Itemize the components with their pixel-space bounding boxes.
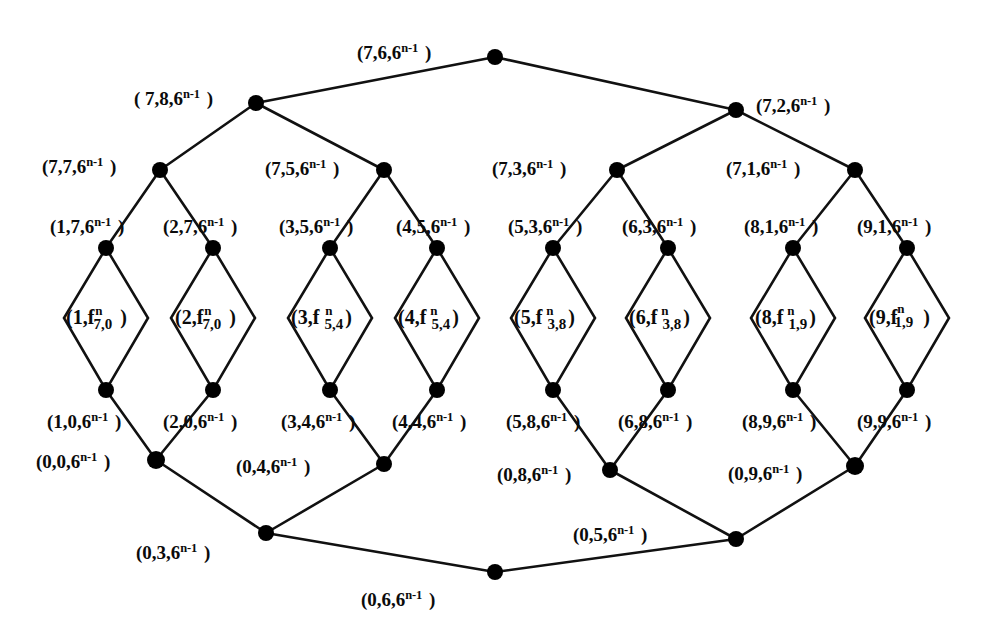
node-d4-top bbox=[429, 240, 445, 256]
cell-label-6: (6,fn3,8) bbox=[629, 307, 690, 327]
node-d8-top bbox=[899, 240, 915, 256]
cell-label-5: (5,fn3,8) bbox=[514, 307, 575, 327]
node-d3-bottom bbox=[322, 382, 338, 398]
label-r3-3: (3,5,6n-1) bbox=[279, 216, 353, 236]
node-d2-top bbox=[205, 240, 221, 256]
cell-label-2: (2,fn7,0) bbox=[175, 307, 236, 327]
node-d7-bottom bbox=[785, 382, 801, 398]
node-d1-bottom bbox=[98, 382, 114, 398]
node-d7-top bbox=[785, 240, 801, 256]
node-top-left bbox=[248, 95, 264, 111]
cell-label-8: (9,fn1,9) bbox=[869, 307, 930, 327]
node-merge-e bbox=[147, 451, 165, 469]
label-r6-d: (0,9,6n-1) bbox=[728, 463, 802, 483]
node-d4-bottom bbox=[429, 382, 445, 398]
label-r3-8: (9,1,6n-1) bbox=[857, 216, 931, 236]
node-branch-c bbox=[609, 162, 625, 178]
label-bottom-right: (0,5,6n-1) bbox=[573, 524, 647, 544]
label-r3-4: (4,5,6n-1) bbox=[396, 216, 470, 236]
node-d2-bottom bbox=[205, 382, 221, 398]
label-r2-c: (7,3,6n-1) bbox=[492, 158, 566, 178]
node-branch-b bbox=[376, 162, 392, 178]
label-bottom-center: (0,6,6n-1) bbox=[361, 589, 435, 609]
node-d6-top bbox=[660, 240, 676, 256]
label-bottom-left: (0,3,6n-1) bbox=[136, 542, 210, 562]
node-d6-bottom bbox=[660, 382, 676, 398]
label-r6-c: (0,8,6n-1) bbox=[497, 464, 571, 484]
label-r5-7: (8,9,6n-1) bbox=[742, 411, 816, 431]
node-d1-top bbox=[98, 240, 114, 256]
label-r6-b: (0,4,6n-1) bbox=[236, 456, 310, 476]
node-d5-top bbox=[545, 240, 561, 256]
label-r2-d: (7,1,6n-1) bbox=[726, 158, 800, 178]
label-r5-2: (2,0,6n-1) bbox=[163, 411, 237, 431]
node-merge-h bbox=[846, 457, 864, 475]
edge-tl-to-a bbox=[160, 103, 256, 170]
node-top-right bbox=[728, 102, 744, 118]
label-r2-a: (7,7,6n-1) bbox=[42, 156, 116, 176]
node-top-center bbox=[487, 49, 503, 65]
label-top-right: (7,2,6n-1) bbox=[756, 95, 830, 115]
node-d5-bottom bbox=[545, 382, 561, 398]
edge-bl-bottom bbox=[266, 533, 495, 572]
label-top-center: (7,6,6n-1) bbox=[357, 42, 431, 62]
edge-tr-to-c bbox=[617, 110, 736, 170]
node-branch-d bbox=[847, 162, 863, 178]
label-r3-5: (5,3,6n-1) bbox=[508, 216, 582, 236]
label-r5-1: (1,0,6n-1) bbox=[47, 411, 121, 431]
cell-label-7: (8,fn1,9) bbox=[755, 307, 816, 327]
label-r3-1: (1,7,6n-1) bbox=[50, 216, 124, 236]
node-d3-top bbox=[322, 240, 338, 256]
edge-top-right bbox=[495, 57, 736, 110]
node-merge-g bbox=[602, 462, 618, 478]
label-r3-2: (2,7,6n-1) bbox=[163, 216, 237, 236]
cell-label-4: (4,fn5,4) bbox=[398, 307, 459, 327]
cell-label-3: (3,fn5,4) bbox=[291, 307, 352, 327]
node-bottom-left bbox=[258, 525, 274, 541]
label-r5-6: (6,8,6n-1) bbox=[618, 411, 692, 431]
node-bottom-right bbox=[728, 531, 744, 547]
node-merge-f bbox=[376, 456, 392, 472]
label-r3-7: (8,1,6n-1) bbox=[744, 216, 818, 236]
label-r2-b: (7,5,6n-1) bbox=[265, 158, 339, 178]
label-r5-3: (3,4,6n-1) bbox=[281, 411, 355, 431]
node-bottom-center bbox=[487, 564, 503, 580]
label-r5-5: (5,8,6n-1) bbox=[506, 411, 580, 431]
node-branch-a bbox=[152, 162, 168, 178]
edge-top-left bbox=[256, 57, 495, 103]
cell-label-1: (1,fn7,0) bbox=[66, 307, 127, 327]
label-r6-a: (0,0,6n-1) bbox=[36, 451, 110, 471]
label-r3-6: (6,3,6n-1) bbox=[622, 216, 696, 236]
label-r5-8: (9,9,6n-1) bbox=[857, 411, 931, 431]
label-r5-4: (4,4,6n-1) bbox=[392, 411, 466, 431]
figure-canvas: (7,6,6n-1) ( 7,8,6n-1) (7,2,6n-1) (7,7,6… bbox=[0, 0, 991, 634]
node-d8-bottom bbox=[899, 382, 915, 398]
label-top-left: ( 7,8,6n-1) bbox=[134, 88, 213, 108]
